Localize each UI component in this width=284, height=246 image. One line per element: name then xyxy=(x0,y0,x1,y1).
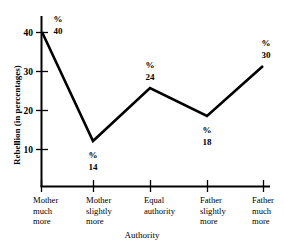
point-label-0-value: 40 xyxy=(54,26,64,36)
point-label-1-percent: % xyxy=(89,150,98,160)
y-tick-label-20: 20 xyxy=(24,106,34,116)
x-axis-title: Authority xyxy=(0,230,284,240)
point-label-4-value: 30 xyxy=(262,50,272,60)
point-label-2-percent: % xyxy=(146,60,155,70)
y-tick-label-40: 40 xyxy=(24,28,34,38)
line-chart: 40 30 20 10 % 40 % 14 % 24 % 18 % 30 Reb… xyxy=(0,0,284,246)
point-label-1-value: 14 xyxy=(89,162,99,172)
y-axis-title: Rebellion (in percentages) xyxy=(12,65,22,165)
x-category-label-3: Father slightly more xyxy=(200,195,256,227)
y-tick-label-10: 10 xyxy=(24,145,34,155)
data-series-line xyxy=(42,32,263,141)
x-category-label-1: Mother slightly more xyxy=(86,195,142,227)
x-category-label-2: Equal authority xyxy=(144,195,202,216)
point-label-2-value: 24 xyxy=(146,72,156,82)
point-label-3-value: 18 xyxy=(203,137,213,147)
y-tick-label-30: 30 xyxy=(24,67,34,77)
x-category-label-4: Father much more xyxy=(252,195,284,227)
point-label-3-percent: % xyxy=(203,125,212,135)
point-label-0-percent: % xyxy=(54,14,63,24)
point-label-4-percent: % xyxy=(262,38,271,48)
x-category-label-0: Mother much more xyxy=(33,195,85,227)
